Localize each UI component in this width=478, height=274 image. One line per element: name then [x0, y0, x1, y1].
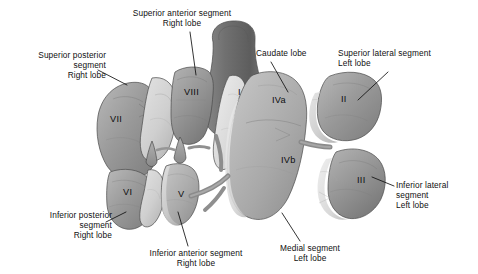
callout-inferior-lateral-segment-left-lobe: Inferior lateral segment Left lobe	[396, 180, 474, 211]
callout-caudate-lobe: Caudate lobe	[256, 48, 326, 58]
leader-line-medial-segment-left-lobe	[282, 213, 300, 241]
liver-segments-figure: Superior anterior segment Right lobeSupe…	[0, 0, 478, 274]
callout-inferior-posterior-segment-right-lobe: Inferior posterior segment Right lobe	[22, 210, 112, 241]
segment-label-iva: IVa	[272, 96, 286, 105]
segment-label-iii: III	[357, 176, 366, 185]
segment-label-ivb: IVb	[281, 156, 296, 165]
segment-label-ii: II	[341, 95, 347, 104]
segment-label-i: I	[238, 88, 241, 97]
callout-superior-lateral-segment-left-lobe: Superior lateral segment Left lobe	[338, 48, 472, 68]
callout-medial-segment-left-lobe: Medial segment Left lobe	[258, 243, 362, 263]
callout-inferior-anterior-segment-right-lobe: Inferior anterior segment Right lobe	[132, 248, 260, 268]
segment-label-vi: VI	[123, 188, 132, 197]
segment-label-viii: VIII	[184, 88, 199, 97]
segment-label-v: V	[178, 190, 184, 199]
callout-superior-posterior-segment-right-lobe: Superior posterior segment Right lobe	[8, 50, 106, 81]
segment-label-vii: VII	[110, 115, 122, 124]
callout-superior-anterior-segment-right-lobe: Superior anterior segment Right lobe	[113, 8, 251, 28]
